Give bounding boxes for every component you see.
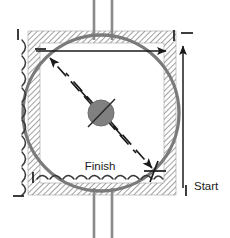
label-start: Start (194, 180, 219, 192)
diagram-canvas: Finish Start (0, 0, 230, 238)
label-finish: Finish (85, 160, 116, 172)
mechanical-diagram: Finish Start (0, 0, 230, 238)
